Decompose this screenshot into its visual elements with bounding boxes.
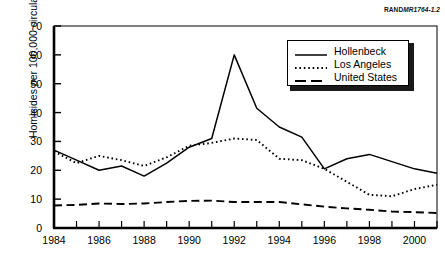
legend-box: HollenbeckLos AngelesUnited States bbox=[287, 40, 409, 86]
legend-swatch-dotted-icon bbox=[294, 59, 328, 70]
chart-figure: RANDMR1764-1.2 Homicides per 100,000 cir… bbox=[0, 0, 445, 262]
chart-legend: HollenbeckLos AngelesUnited States bbox=[287, 40, 411, 88]
x-axis-tick-label: 1996 bbox=[313, 234, 336, 246]
x-axis-tick-label: 1988 bbox=[132, 234, 155, 246]
x-axis-tick-label: 1992 bbox=[223, 234, 246, 246]
x-axis-tick-label: 1994 bbox=[268, 234, 291, 246]
x-axis-tick-label: 2000 bbox=[403, 234, 426, 246]
x-axis-tick-label: 1998 bbox=[358, 234, 381, 246]
legend-swatch-solid-icon bbox=[294, 46, 328, 57]
legend-label: Los Angeles bbox=[334, 59, 391, 70]
x-axis-tick-label: 1986 bbox=[87, 234, 110, 246]
legend-label: United States bbox=[334, 72, 397, 83]
x-axis-tick-label: 1990 bbox=[177, 234, 200, 246]
x-axis-tick-label: 1984 bbox=[42, 234, 65, 246]
legend-swatch-dashed-icon bbox=[294, 72, 328, 83]
legend-item[interactable]: Hollenbeck bbox=[294, 45, 408, 58]
series-line-united-states bbox=[54, 201, 437, 213]
legend-item[interactable]: United States bbox=[294, 71, 408, 84]
legend-item[interactable]: Los Angeles bbox=[294, 58, 408, 71]
legend-label: Hollenbeck bbox=[334, 46, 386, 57]
